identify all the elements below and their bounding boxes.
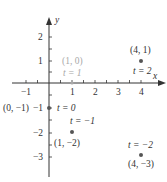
point-marker-icon bbox=[139, 59, 143, 63]
x-axis-label: x bbox=[152, 71, 158, 81]
y-tick-label: −1 bbox=[33, 103, 43, 113]
point-t-minus1: t = −1 (1, −2) bbox=[54, 116, 95, 149]
y-tick-label: −2 bbox=[33, 128, 43, 138]
y-tick-label: 1 bbox=[38, 56, 43, 66]
y-axis-arrow-icon bbox=[46, 17, 52, 25]
point-t-label: t = 1 bbox=[63, 68, 82, 78]
x-tick-label: 2 bbox=[93, 87, 98, 97]
y-axis-label: y bbox=[54, 15, 60, 25]
point-t-label: t = 2 bbox=[133, 66, 152, 76]
point-marker-icon bbox=[47, 106, 51, 110]
point-coord-label: (1, −2) bbox=[54, 138, 80, 149]
parametric-plot: −1 1 2 3 4 x 2 1 −1 −2 −3 y (4, 1) bbox=[0, 0, 167, 182]
point-marker-icon bbox=[139, 153, 143, 157]
y-tick-label: 2 bbox=[38, 32, 43, 42]
point-marker-icon bbox=[70, 81, 73, 84]
point-marker-icon bbox=[70, 130, 74, 134]
x-tick-label: 1 bbox=[70, 87, 75, 97]
y-tick-label: −3 bbox=[33, 152, 43, 162]
point-coord-label: (1, 0) bbox=[62, 56, 83, 67]
point-t-label: t = −2 bbox=[128, 140, 153, 150]
point-coord-label: (4, −3) bbox=[128, 159, 154, 170]
point-coord-label: (0, −1) bbox=[3, 103, 29, 114]
point-t2: (4, 1) t = 2 bbox=[130, 45, 152, 76]
x-tick-label: 4 bbox=[139, 87, 144, 97]
x-tick-label: 3 bbox=[116, 87, 121, 97]
point-t-minus2: t = −2 (4, −3) bbox=[128, 140, 154, 170]
x-tick-label: −1 bbox=[21, 87, 31, 97]
point-t-label: t = −1 bbox=[70, 116, 95, 126]
point-t-label: t = 0 bbox=[57, 103, 76, 113]
y-axis: 2 1 −1 −2 −3 y bbox=[33, 15, 60, 177]
point-coord-label: (4, 1) bbox=[130, 45, 151, 56]
x-axis-arrow-icon bbox=[158, 80, 166, 86]
